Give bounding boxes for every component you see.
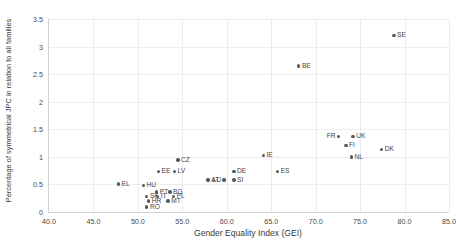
gridline-vertical: [227, 19, 228, 212]
data-point-marker: [344, 144, 347, 147]
data-point-marker: [117, 182, 120, 185]
data-point-marker: [176, 158, 179, 161]
data-point-marker: [206, 178, 209, 181]
data-point-marker: [380, 148, 383, 151]
data-point-label: EL: [122, 181, 130, 188]
data-point-label: LV: [178, 168, 186, 175]
y-axis-tick-label: 3: [39, 42, 43, 51]
gridline-vertical: [138, 19, 139, 212]
gridline-horizontal: [49, 129, 449, 130]
y-axis-tick-label: 2.5: [33, 70, 43, 79]
gridline-vertical: [316, 19, 317, 212]
x-axis-title: Gender Equality Index (GEI): [48, 228, 448, 238]
y-axis-tick-label: 0: [39, 208, 43, 217]
y-axis-title: Percentage of symmetrical JPC in relatio…: [0, 0, 18, 220]
data-point-marker: [166, 199, 169, 202]
data-point-marker: [157, 170, 160, 173]
x-axis-tick-label: 75.0: [353, 217, 367, 226]
x-axis-tick-label: 40.0: [42, 217, 56, 226]
data-point-label: IE: [266, 152, 272, 159]
data-point-marker: [392, 34, 395, 37]
data-point-label: FR: [327, 133, 336, 140]
data-point-marker: [351, 135, 354, 138]
data-point-label: SE: [397, 32, 406, 39]
gridline-vertical: [449, 19, 450, 212]
data-point-label: BE: [302, 63, 311, 70]
gridline-vertical: [182, 19, 183, 212]
data-point-label: ES: [281, 168, 290, 175]
gridline-horizontal: [49, 47, 449, 48]
x-axis-tick-label: 70.0: [309, 217, 323, 226]
data-point-label: FI: [349, 142, 355, 149]
data-point-label: NL: [354, 154, 362, 161]
data-point-label: EE: [162, 168, 171, 175]
data-point-label: MT: [171, 198, 181, 205]
y-axis-tick-label: 1.5: [33, 125, 43, 134]
data-point-marker: [337, 135, 340, 138]
gridline-horizontal: [49, 74, 449, 75]
gridline-horizontal: [49, 184, 449, 185]
y-axis-tick-label: 1: [39, 152, 43, 161]
x-axis-tick-label: 45.0: [86, 217, 100, 226]
data-point-marker: [232, 178, 235, 181]
data-point-marker: [173, 170, 176, 173]
x-axis-tick-label: 65.0: [264, 217, 278, 226]
y-axis-tick-label: 3.5: [33, 15, 43, 24]
data-point-marker: [297, 64, 300, 67]
data-point-marker: [222, 178, 225, 181]
x-axis-tick-label: 60.0: [220, 217, 234, 226]
gridline-vertical: [271, 19, 272, 212]
x-axis-tick-label: 50.0: [131, 217, 145, 226]
data-point-label: HU: [146, 182, 156, 189]
data-point-marker: [142, 184, 145, 187]
data-point-label: RO: [150, 204, 160, 211]
y-axis-tick-label: 2: [39, 97, 43, 106]
gridline-horizontal: [49, 19, 449, 20]
x-axis-tick-label: 85.0: [442, 217, 456, 226]
data-point-label: DE: [237, 168, 246, 175]
data-point-label: DK: [385, 146, 394, 153]
data-point-label: LU: [212, 177, 220, 184]
data-point-marker: [145, 195, 148, 198]
data-point-marker: [232, 170, 235, 173]
data-point-label: UK: [356, 133, 365, 140]
gridline-vertical: [360, 19, 361, 212]
gridline-vertical: [405, 19, 406, 212]
data-point-label: CZ: [181, 157, 190, 164]
gridline-vertical: [93, 19, 94, 212]
gridline-horizontal: [49, 157, 449, 158]
x-axis-tick-label: 80.0: [398, 217, 412, 226]
y-axis-tick-label: 0.5: [33, 180, 43, 189]
data-point-marker: [276, 170, 279, 173]
data-point-marker: [145, 205, 148, 208]
data-point-marker: [350, 155, 353, 158]
x-axis-tick-label: 55.0: [175, 217, 189, 226]
gridline-horizontal: [49, 102, 449, 103]
plot-area: 00.511.522.533.540.045.050.055.060.065.0…: [48, 19, 449, 213]
data-point-label: SI: [237, 177, 243, 184]
data-point-marker: [168, 190, 171, 193]
